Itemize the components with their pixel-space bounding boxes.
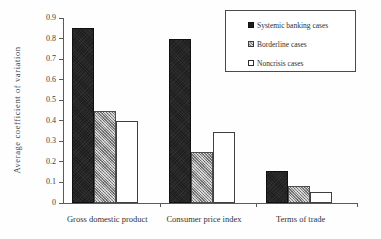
y-axis-tick: 0.1	[29, 177, 63, 187]
y-axis-tick: 0.9	[29, 13, 63, 23]
x-axis-group-tick	[256, 203, 257, 207]
x-axis-category-label: Gross domestic product	[59, 214, 156, 224]
y-axis-tick-mark	[59, 182, 63, 183]
y-axis-tick: 0.4	[29, 116, 63, 126]
y-axis-tick: 0	[29, 198, 63, 208]
x-axis-group-tick	[160, 203, 161, 207]
y-axis-tick: 0.6	[29, 75, 63, 85]
y-axis-tick: 0.2	[29, 157, 63, 167]
y-axis-title: Average coefficient of variation	[12, 15, 22, 205]
y-axis-tick-label: 0.3	[46, 136, 56, 146]
y-axis-tick-mark	[59, 79, 63, 80]
legend-item-noncrisis-cases: Noncrisis cases	[248, 58, 303, 68]
y-axis-tick: 0.7	[29, 54, 63, 64]
y-axis-tick-label: 0.7	[46, 54, 56, 64]
x-axis-line	[63, 203, 358, 204]
bar	[94, 111, 116, 204]
bar	[72, 28, 94, 203]
legend-item-systemic-banking-cases: Systemic banking cases	[248, 20, 328, 30]
y-axis-tick-mark	[59, 120, 63, 121]
legend-label-borderline-cases: Borderline cases	[257, 40, 307, 49]
y-axis-tick-label: 0.6	[46, 75, 56, 85]
legend-item-borderline-cases: Borderline cases	[248, 39, 307, 49]
y-axis-tick-mark	[59, 59, 63, 60]
legend-swatch-icon-borderline-cases	[248, 41, 254, 47]
bar	[191, 152, 213, 203]
legend-label-systemic-banking-cases: Systemic banking cases	[257, 21, 328, 30]
y-axis-line	[63, 18, 64, 204]
y-axis-tick-label: 0	[52, 198, 56, 208]
y-axis-tick-mark	[59, 18, 63, 19]
bar	[266, 171, 288, 203]
legend-box: Systemic banking cases Borderline cases …	[225, 10, 356, 72]
legend-swatch-icon-systemic-banking-cases	[248, 22, 254, 28]
legend-label-noncrisis-cases: Noncrisis cases	[257, 59, 303, 68]
y-axis-tick-label: 0.4	[46, 116, 56, 126]
bar	[169, 39, 191, 203]
chart-figure: Average coefficient of variation 00.10.2…	[0, 0, 381, 239]
legend-swatch-icon-noncrisis-cases	[248, 60, 254, 66]
x-axis-end-tick	[357, 203, 358, 207]
y-axis-tick-label: 0.9	[46, 13, 56, 23]
bar	[310, 192, 332, 203]
y-axis-tick-label: 0.5	[46, 95, 56, 105]
x-axis-category-label: Consumer price index	[156, 214, 253, 224]
y-axis-tick-mark	[59, 100, 63, 101]
y-axis-tick: 0.5	[29, 95, 63, 105]
y-axis-tick-label: 0.8	[46, 34, 56, 44]
y-axis-tick-label: 0.1	[46, 177, 56, 187]
y-axis-tick-mark	[59, 38, 63, 39]
y-axis-tick: 0.3	[29, 136, 63, 146]
bar	[116, 121, 138, 203]
bar	[288, 186, 310, 203]
y-axis-tick-label: 0.2	[46, 157, 56, 167]
y-axis-tick-mark	[59, 141, 63, 142]
bar	[213, 132, 235, 203]
y-axis-tick-mark	[59, 203, 63, 204]
y-axis-tick: 0.8	[29, 34, 63, 44]
y-axis-tick-mark	[59, 161, 63, 162]
x-axis-category-label: Terms of trade	[252, 214, 349, 224]
